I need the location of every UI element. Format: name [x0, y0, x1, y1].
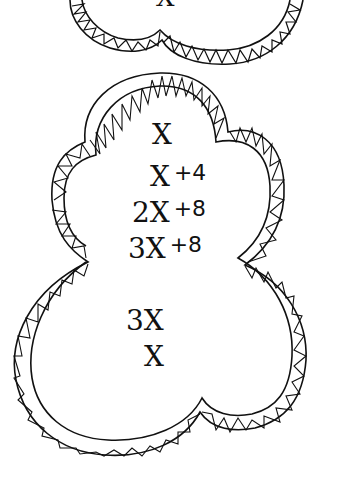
expression-term: X: [152, 118, 172, 151]
expression-line-5: 3X: [126, 304, 164, 337]
top-cloud-expression: X: [156, 0, 175, 12]
expression-term: 2X: [132, 196, 170, 229]
expression-term: X: [144, 340, 164, 373]
expression-line-2: X+4: [150, 160, 206, 193]
top-cloud-shape: [70, 0, 303, 64]
expression-term: X: [150, 160, 170, 193]
expression-term: 3X: [126, 304, 164, 337]
expression-addend: +8: [174, 196, 206, 221]
expression-line-3: 2X+8: [132, 196, 206, 229]
expression-line-1: X: [152, 118, 172, 151]
expression-term: 3X: [128, 232, 166, 265]
expression-line-6: X: [144, 340, 164, 373]
expression-addend: +4: [174, 160, 206, 185]
expression-term: X: [156, 0, 175, 12]
expression-addend: +8: [170, 232, 202, 257]
expression-line-4: 3X+8: [128, 232, 202, 265]
